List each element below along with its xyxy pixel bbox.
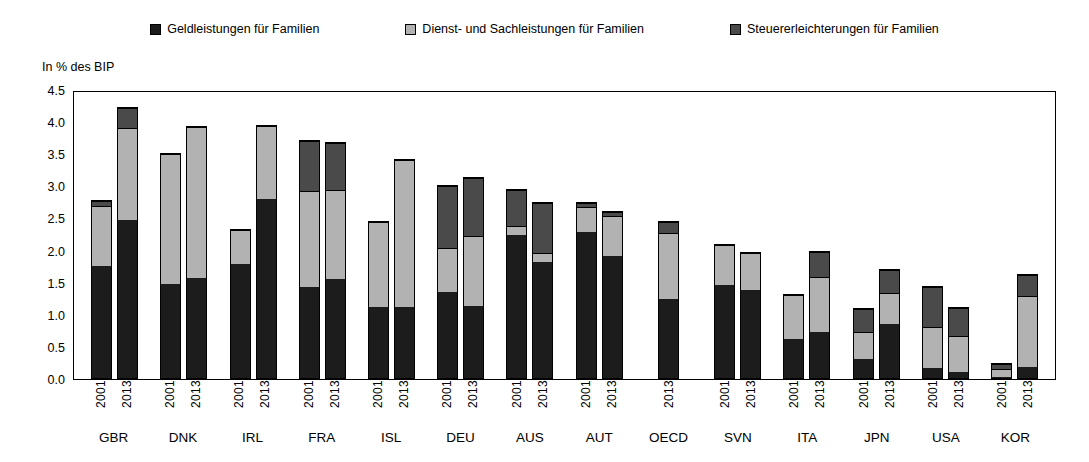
x-axis-category-label: JPN — [864, 430, 890, 445]
bar-segment-1 — [810, 277, 829, 332]
bar-segment-2 — [923, 287, 942, 327]
x-axis-year-label: 2001 — [506, 380, 527, 426]
bar-segment-1 — [992, 369, 1011, 377]
bar-segment-0 — [810, 332, 829, 378]
x-axis-year-label: 2013 — [532, 380, 553, 426]
bar-segment-1 — [854, 332, 873, 359]
x-axis-year-labels: 20012013 — [784, 380, 831, 426]
bar-segment-0 — [880, 324, 899, 378]
stacked-bar — [602, 211, 623, 379]
bar-segment-0 — [533, 262, 552, 378]
bar-segment-0 — [507, 235, 526, 378]
x-axis-group: 20012013USA — [911, 380, 980, 462]
bar-group — [703, 92, 772, 379]
bar-segment-0 — [161, 284, 180, 378]
bar-segment-0 — [464, 306, 483, 378]
x-axis-year-labels: 20012013 — [922, 380, 969, 426]
bar-segment-2 — [326, 143, 345, 190]
bar-segment-1 — [257, 126, 276, 199]
bar-segment-1 — [300, 191, 319, 287]
bar-segment-1 — [118, 128, 137, 220]
x-axis-year-labels: 20012013 — [853, 380, 900, 426]
square-marker-icon — [730, 24, 741, 35]
x-axis-year-labels: 20012013 — [576, 380, 623, 426]
bar-segment-2 — [507, 190, 526, 226]
stacked-bar — [368, 221, 389, 379]
x-axis-category-label: GBR — [99, 430, 128, 445]
bar-segment-0 — [118, 220, 137, 378]
bar-group — [80, 92, 149, 379]
bar-segment-1 — [326, 190, 345, 280]
bar-group — [841, 92, 910, 379]
bar-segment-2 — [949, 308, 968, 336]
x-axis-category-label: OECD — [649, 430, 688, 445]
stacked-bar — [576, 202, 597, 379]
bar-segment-0 — [784, 339, 803, 378]
x-axis-category-label: SVN — [724, 430, 752, 445]
bar-segment-1 — [231, 230, 250, 264]
bar-segment-1 — [923, 327, 942, 368]
stacked-bar — [922, 286, 943, 379]
y-axis-tick-label: 4.5 — [48, 84, 65, 98]
bar-segment-0 — [715, 285, 734, 378]
y-axis-tick-label: 0.0 — [48, 373, 65, 387]
x-axis-year-label: 2001 — [368, 380, 389, 426]
chart-legend: Geldleistungen für FamilienDienst- und S… — [0, 18, 1089, 40]
x-axis-group: 20012013IRL — [218, 380, 287, 462]
x-axis-group: 2013OECD — [634, 380, 703, 462]
x-axis-year-label: 2013 — [810, 380, 831, 426]
stacked-bar — [394, 159, 415, 379]
x-axis-category-label: IRL — [242, 430, 263, 445]
x-axis-group: 20012013FRA — [287, 380, 356, 462]
x-axis-category-label: ITA — [797, 430, 817, 445]
stacked-bar — [991, 363, 1012, 379]
x-axis-year-label: 2013 — [740, 380, 761, 426]
bar-segment-0 — [659, 299, 678, 378]
x-axis-category-label: DNK — [169, 430, 198, 445]
stacked-bar — [1017, 274, 1038, 380]
bar-segment-0 — [92, 266, 111, 378]
bar-group — [426, 92, 495, 379]
stacked-bar — [714, 244, 735, 379]
x-axis-category-label: KOR — [1001, 430, 1030, 445]
plot-area — [73, 91, 1056, 380]
bar-segment-2 — [659, 222, 678, 233]
bar-segment-0 — [187, 278, 206, 378]
bar-segment-0 — [854, 359, 873, 378]
bar-segment-1 — [464, 236, 483, 306]
stacked-bar — [256, 125, 277, 379]
stacked-bar — [117, 107, 138, 379]
bar-segment-0 — [438, 292, 457, 378]
y-axis-tick-label: 2.0 — [48, 245, 65, 259]
x-axis-year-label: 2001 — [992, 380, 1013, 426]
x-axis-group: 20012013DNK — [148, 380, 217, 462]
x-axis-year-label: 2013 — [1018, 380, 1039, 426]
bar-group — [218, 92, 287, 379]
x-axis-year-label: 2013 — [602, 380, 623, 426]
x-axis-year-label: 2013 — [116, 380, 137, 426]
x-axis-group: 20012013JPN — [842, 380, 911, 462]
y-axis-tick-label: 1.5 — [48, 277, 65, 291]
x-axis-year-label: 2001 — [298, 380, 319, 426]
bar-segment-0 — [257, 199, 276, 378]
x-axis-group: 20012013AUT — [565, 380, 634, 462]
x-axis-group: 20012013AUS — [495, 380, 564, 462]
bar-group — [980, 92, 1049, 379]
bar-segment-1 — [161, 154, 180, 284]
y-axis-tick-label: 3.5 — [48, 148, 65, 162]
bar-group — [634, 92, 703, 379]
stacked-bar — [853, 308, 874, 379]
x-axis-year-labels: 20012013 — [714, 380, 761, 426]
bar-segment-2 — [438, 186, 457, 247]
stacked-bar — [463, 177, 484, 379]
x-axis-year-label: 2001 — [90, 380, 111, 426]
bar-group — [149, 92, 218, 379]
stacked-bar — [186, 126, 207, 379]
bar-segment-1 — [603, 216, 622, 257]
x-axis: 20012013GBR20012013DNK20012013IRL2001201… — [73, 380, 1056, 462]
bar-segment-0 — [326, 279, 345, 378]
bar-segment-2 — [118, 108, 137, 128]
x-axis-year-label: 2001 — [229, 380, 250, 426]
x-axis-year-label: 2001 — [922, 380, 943, 426]
x-axis-year-labels: 20012013 — [160, 380, 207, 426]
